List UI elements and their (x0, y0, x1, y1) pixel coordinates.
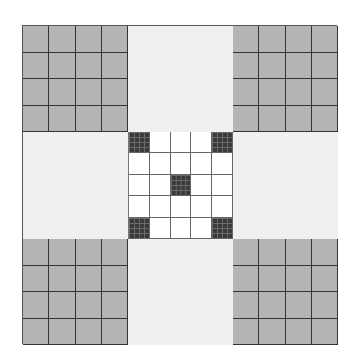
grid-cell (76, 292, 102, 319)
white-cell (150, 153, 171, 174)
grid-cell (259, 292, 285, 319)
white-cell (129, 153, 150, 174)
white-cell (212, 175, 233, 196)
grid-cell (49, 106, 75, 133)
white-cell (212, 196, 233, 217)
grid-cell (233, 26, 259, 53)
dark-subgrid-cell (129, 132, 150, 153)
dark-subgrid-cell (129, 218, 150, 239)
white-cell (171, 218, 192, 239)
white-cell (129, 196, 150, 217)
block-bottom-left (23, 239, 128, 345)
grid-cell (286, 106, 312, 133)
grid-cell (76, 106, 102, 133)
grid-cell (23, 319, 49, 346)
grid-cell (286, 266, 312, 293)
white-cell (191, 218, 212, 239)
grid-cell (259, 53, 285, 80)
grid-cell (259, 239, 285, 266)
grid-cell (312, 292, 338, 319)
white-cell (171, 153, 192, 174)
grid-cell (286, 79, 312, 106)
dark-subgrid-cell (171, 175, 192, 196)
grid-cell (312, 266, 338, 293)
grid-cell (233, 79, 259, 106)
block-bottom-right (233, 239, 338, 345)
white-cell (150, 218, 171, 239)
grid-cell (259, 319, 285, 346)
grid-cell (233, 53, 259, 80)
grid-cell (49, 292, 75, 319)
white-cell (191, 196, 212, 217)
white-cell (191, 175, 212, 196)
grid-cell (312, 319, 338, 346)
grid-cell (76, 319, 102, 346)
block-top-left (23, 26, 128, 132)
grid-cell (23, 292, 49, 319)
grid-cell (102, 239, 128, 266)
fractal-grid-diagram (22, 25, 337, 344)
grid-cell (76, 266, 102, 293)
block-bottom-center (128, 239, 233, 345)
grid-cell (286, 26, 312, 53)
grid-cell (286, 53, 312, 80)
grid-cell (76, 79, 102, 106)
white-cell (150, 196, 171, 217)
white-cell (171, 196, 192, 217)
grid-cell (312, 106, 338, 133)
grid-cell (76, 53, 102, 80)
grid-cell (312, 79, 338, 106)
white-cell (129, 175, 150, 196)
grid-cell (23, 239, 49, 266)
grid-cell (102, 319, 128, 346)
grid-cell (312, 26, 338, 53)
grid-cell (23, 106, 49, 133)
grid-cell (259, 26, 285, 53)
grid-cell (49, 239, 75, 266)
block-middle-left (23, 132, 128, 239)
grid-cell (286, 239, 312, 266)
grid-cell (312, 53, 338, 80)
grid-cell (259, 79, 285, 106)
white-cell (150, 175, 171, 196)
grid-cell (102, 79, 128, 106)
block-middle-right (233, 132, 338, 239)
grid-cell (76, 239, 102, 266)
grid-cell (233, 266, 259, 293)
grid-cell (102, 53, 128, 80)
grid-cell (23, 266, 49, 293)
grid-cell (312, 239, 338, 266)
grid-cell (49, 26, 75, 53)
grid-cell (259, 266, 285, 293)
grid-cell (286, 292, 312, 319)
grid-cell (49, 53, 75, 80)
grid-cell (233, 239, 259, 266)
white-cell (191, 153, 212, 174)
white-cell (150, 132, 171, 153)
grid-cell (286, 319, 312, 346)
white-cell (212, 153, 233, 174)
dark-subgrid-cell (212, 132, 233, 153)
grid-cell (49, 79, 75, 106)
block-top-center (128, 26, 233, 132)
grid-cell (233, 292, 259, 319)
grid-cell (102, 266, 128, 293)
grid-cell (233, 106, 259, 133)
grid-cell (102, 292, 128, 319)
grid-cell (23, 79, 49, 106)
grid-cell (23, 53, 49, 80)
grid-cell (49, 319, 75, 346)
white-cell (191, 132, 212, 153)
grid-cell (259, 106, 285, 133)
grid-cell (102, 106, 128, 133)
grid-cell (76, 26, 102, 53)
block-center (128, 132, 233, 239)
grid-cell (23, 26, 49, 53)
dark-subgrid-cell (212, 218, 233, 239)
block-top-right (233, 26, 338, 132)
grid-cell (49, 266, 75, 293)
white-cell (171, 132, 192, 153)
grid-cell (233, 319, 259, 346)
grid-cell (102, 26, 128, 53)
